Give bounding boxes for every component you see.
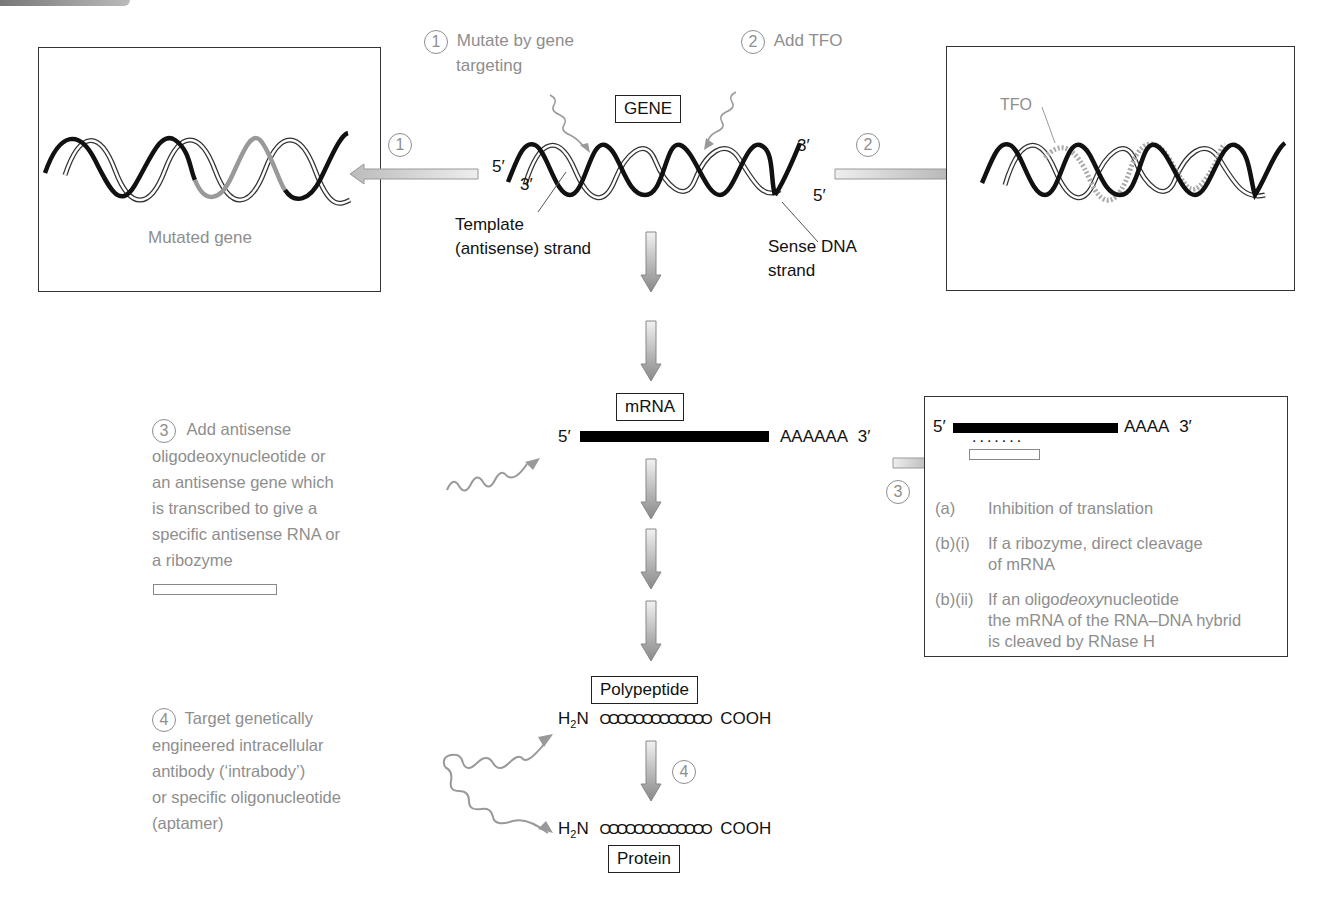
effect-text-italic: deoxy [1060, 590, 1104, 608]
down-arrow-icon [640, 528, 662, 590]
box-poly-a-text: AAAA [1124, 417, 1168, 436]
effect-text-line2: of mRNA [988, 555, 1055, 573]
mrna-5prime: 5′ [558, 425, 571, 449]
effect-text-line3: is cleaved by RNase H [988, 632, 1155, 650]
mrna-3prime: 3′ [858, 427, 871, 446]
step-4-arrow-badge: 4 [672, 760, 696, 784]
step-1-arrow-badge: 1 [388, 133, 412, 157]
box-mrna-5prime: 5′ [933, 415, 946, 439]
effect-item-b-ii: (b)(ii) If an oligodeoxynucleotide the m… [935, 589, 1241, 652]
tfo-pointer-line [1040, 105, 1060, 145]
strategy-3-line: is transcribed to give a [152, 499, 317, 517]
step-3-arrow-badge: 3 [886, 480, 910, 504]
step-2-badge: 2 [741, 30, 765, 54]
down-arrow-folding-icon [640, 740, 662, 802]
strategy-1-annotation: 1 Mutate by gene targeting [424, 29, 574, 78]
effect-list: (a) Inhibition of translation (b)(i) If … [935, 498, 1241, 652]
step-3-badge: 3 [152, 419, 176, 443]
step-1-badge: 1 [424, 30, 448, 54]
down-arrow-icon [640, 458, 662, 520]
effect-text-line1: If a ribozyme, direct cleavage [988, 534, 1203, 552]
arrow-left-to-mutated-icon [350, 163, 485, 185]
template-label-line1: Template [455, 215, 524, 234]
protein-residues: OOOOOOOOOOOOO [599, 820, 709, 837]
polypeptide-label: Polypeptide [591, 676, 698, 704]
sense-label-line2: strand [768, 261, 815, 280]
effect-key: (b)(i) [935, 533, 988, 575]
protein-c-term: COOH [720, 819, 771, 838]
wavy-arrows-intrabody-icon [440, 725, 555, 835]
strategy-4-line: or specific oligonucleotide [152, 788, 341, 806]
strategy-3-annotation: 3 Add antisense oligodeoxynucleotide or … [152, 416, 340, 573]
mrna-poly-a: AAAAAA 3′ [780, 425, 871, 449]
effect-key: (b)(ii) [935, 589, 988, 652]
strategy-3-line: a ribozyme [152, 551, 233, 569]
polypeptide-n-term: H [558, 709, 570, 728]
gene-5prime-left: 5′ [492, 155, 505, 179]
protein-n-post: N [576, 819, 588, 838]
effect-text-pre: If an oligo [988, 590, 1060, 608]
box-antisense-oligo-bar [969, 449, 1040, 460]
template-strand-label: Template (antisense) strand [455, 213, 591, 261]
gene-label: GENE [615, 95, 681, 123]
strategy-3-line: oligodeoxynucleotide or [152, 447, 325, 465]
strategy-4-annotation: 4 Target genetically engineered intracel… [152, 705, 341, 836]
sense-strand-label: Sense DNA strand [768, 235, 857, 283]
strategy-4-line: engineered intracellular [152, 736, 324, 754]
mrna-poly-a-text: AAAAAA [780, 427, 847, 446]
effect-text-line2: the mRNA of the RNA–DNA hybrid [988, 611, 1241, 629]
down-arrow-icon [640, 231, 662, 293]
strategy-4-line: (aptamer) [152, 814, 224, 832]
tfo-box-label: TFO [1000, 96, 1032, 114]
strategy-4-line: antibody (‘intrabody’) [152, 762, 305, 780]
step-4-badge: 4 [152, 708, 176, 732]
strategy-1-text-line2: targeting [456, 56, 522, 75]
protein-label: Protein [608, 845, 680, 873]
antisense-oligo-bar [153, 584, 277, 595]
wavy-arrow-antisense-icon [445, 440, 545, 495]
strategy-3-line: specific antisense RNA or [152, 525, 340, 543]
polypeptide-c-term: COOH [720, 709, 771, 728]
down-arrow-icon [640, 600, 662, 662]
strategy-4-line: Target genetically [185, 709, 313, 727]
hybridization-dots: ....... [972, 432, 1024, 442]
box-mrna-poly-a: AAAA 3′ [1124, 415, 1192, 439]
effect-key: (a) [935, 498, 988, 519]
mutated-gene-caption: Mutated gene [148, 226, 252, 250]
effect-text: Inhibition of translation [988, 498, 1153, 519]
box-3prime: 3′ [1179, 417, 1192, 436]
gene-3prime-right: 3′ [797, 134, 810, 158]
strategy-3-line: Add antisense [187, 420, 292, 438]
mutated-dna-helix-icon [40, 130, 360, 210]
strategy-2-text: Add TFO [774, 31, 843, 50]
mrna-label: mRNA [616, 393, 684, 421]
strategy-2-annotation: 2 Add TFO [741, 29, 842, 54]
protein-n-term: H [558, 819, 570, 838]
down-arrow-icon [640, 320, 662, 382]
polypeptide-chain: H2N OOOOOOOOOOOOO COOH [558, 707, 771, 736]
sense-label-line1: Sense DNA [768, 237, 857, 256]
strategy-3-line: an antisense gene which [152, 473, 334, 491]
template-label-line2: (antisense) strand [455, 239, 591, 258]
polypeptide-residues: OOOOOOOOOOOOO [599, 710, 709, 727]
effect-text-post: nucleotide [1104, 590, 1179, 608]
step-2-arrow-badge: 2 [856, 133, 880, 157]
mrna-strand-bar [580, 431, 769, 442]
effect-item-b-i: (b)(i) If a ribozyme, direct cleavage of… [935, 533, 1241, 575]
polypeptide-n-post: N [576, 709, 588, 728]
triplex-dna-helix-icon [980, 140, 1290, 205]
strategy-1-text-line1: Mutate by gene [457, 31, 574, 50]
protein-chain: H2N OOOOOOOOOOOOO COOH [558, 817, 771, 846]
header-bar-fragment [0, 0, 130, 6]
effect-text: If an oligodeoxynucleotide the mRNA of t… [988, 589, 1241, 652]
effect-text: If a ribozyme, direct cleavage of mRNA [988, 533, 1203, 575]
effect-item-a: (a) Inhibition of translation [935, 498, 1241, 519]
